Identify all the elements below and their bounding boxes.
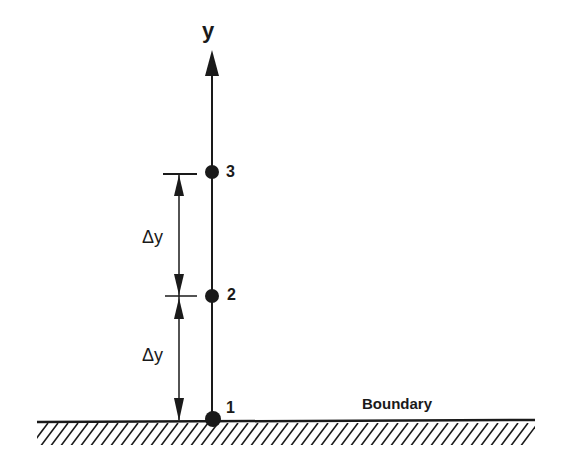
point-label-3: 3 xyxy=(226,164,235,180)
spacing-dimension xyxy=(163,174,197,421)
point-label-2: 2 xyxy=(227,287,236,303)
y-axis-arrowhead xyxy=(205,50,219,76)
grid-point-2 xyxy=(205,289,219,303)
boundary-label: Boundary xyxy=(362,396,432,411)
boundary-line xyxy=(37,420,535,422)
spacing-label-upper: Δy xyxy=(142,228,163,246)
boundary-hatching xyxy=(30,423,538,447)
grid-point-3 xyxy=(205,165,219,179)
grid-diagram xyxy=(0,0,577,476)
y-axis-label: y xyxy=(202,20,214,42)
point-label-1: 1 xyxy=(226,400,235,416)
grid-point-1 xyxy=(205,411,221,427)
spacing-label-lower: Δy xyxy=(142,346,163,364)
